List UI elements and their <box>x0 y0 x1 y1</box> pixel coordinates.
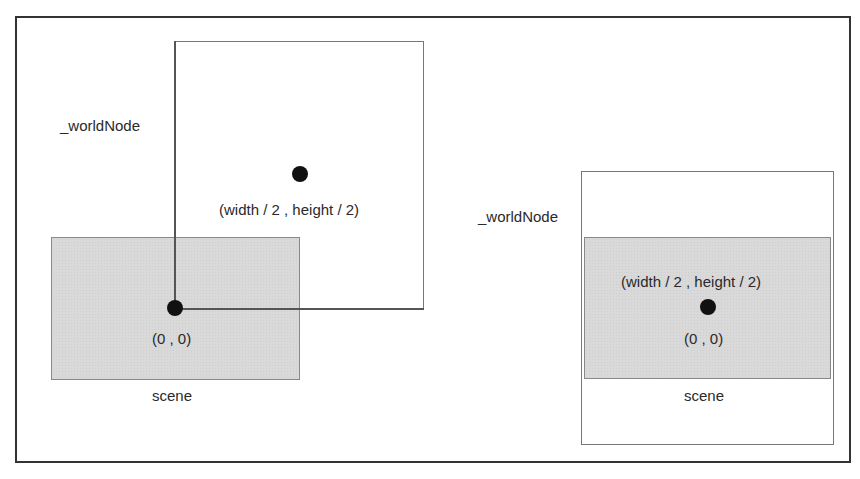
left-world-bottom-edge <box>174 308 424 310</box>
left-scene-label: scene <box>152 387 192 404</box>
left-worldnode-label: _worldNode <box>60 117 140 134</box>
left-center-dot <box>292 166 308 182</box>
left-world-left-edge <box>174 41 176 310</box>
right-origin-label: (0 , 0) <box>684 330 723 347</box>
right-worldnode-label: _worldNode <box>478 208 558 225</box>
left-origin-label: (0 , 0) <box>152 330 191 347</box>
right-scene-label: scene <box>684 387 724 404</box>
right-center-dot <box>700 299 716 315</box>
left-origin-dot <box>167 300 183 316</box>
right-center-label: (width / 2 , height / 2) <box>621 273 761 290</box>
left-center-label: (width / 2 , height / 2) <box>219 201 359 218</box>
